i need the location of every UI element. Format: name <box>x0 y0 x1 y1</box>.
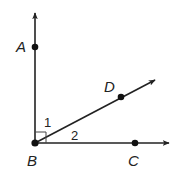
label-b: B <box>27 152 37 169</box>
point-b <box>31 139 38 146</box>
point-c <box>132 140 139 147</box>
point-a <box>32 44 39 51</box>
ray-bd <box>35 80 155 143</box>
angle-label-2: 2 <box>71 128 78 143</box>
label-c: C <box>128 152 139 169</box>
point-d <box>118 94 125 101</box>
angle-diagram: A B C D 1 2 <box>0 0 177 176</box>
label-a: A <box>15 38 26 55</box>
angle-label-1: 1 <box>44 115 51 130</box>
label-d: D <box>104 78 115 95</box>
